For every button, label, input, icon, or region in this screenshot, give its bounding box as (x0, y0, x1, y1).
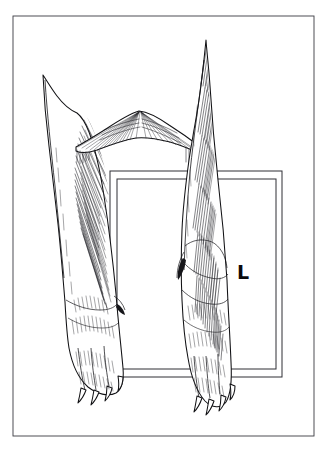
illustration-canvas: L (0, 0, 331, 454)
marker-letter: L (237, 261, 249, 283)
line-art-figure: L (0, 0, 331, 454)
right-forelimb (177, 40, 235, 415)
left-side-marker: L (237, 261, 249, 283)
